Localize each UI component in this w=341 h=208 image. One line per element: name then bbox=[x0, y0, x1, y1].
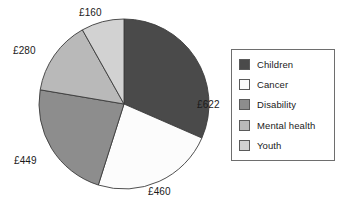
legend-swatch-icon bbox=[239, 99, 250, 110]
slice-value-label: £622 bbox=[197, 99, 220, 110]
legend-item[interactable]: Disability bbox=[239, 96, 334, 114]
legend-item[interactable]: Mental health bbox=[239, 116, 334, 134]
legend-item-label: Children bbox=[257, 59, 293, 70]
legend-swatch-icon bbox=[239, 140, 250, 151]
legend-item-label: Mental health bbox=[257, 120, 315, 131]
slice-value-label: £460 bbox=[148, 186, 171, 197]
legend-item[interactable]: Children bbox=[239, 55, 334, 73]
legend-item-label: Cancer bbox=[257, 79, 288, 90]
legend-item[interactable]: Youth bbox=[239, 137, 334, 155]
legend-item-label: Youth bbox=[257, 140, 281, 151]
slice-value-label: £160 bbox=[79, 7, 102, 18]
legend-item-label: Disability bbox=[257, 99, 296, 110]
pie-chart-figure: £622£460£449£280£160 ChildrenCancerDisab… bbox=[0, 0, 341, 208]
legend-item-list: ChildrenCancerDisabilityMental healthYou… bbox=[232, 50, 334, 160]
slice-value-label: £449 bbox=[14, 155, 37, 166]
legend-item[interactable]: Cancer bbox=[239, 76, 334, 94]
legend: ChildrenCancerDisabilityMental healthYou… bbox=[231, 49, 335, 161]
legend-swatch-icon bbox=[239, 79, 250, 90]
legend-swatch-icon bbox=[239, 120, 250, 131]
pie-svg bbox=[0, 0, 225, 208]
pie-plot-area: £622£460£449£280£160 bbox=[0, 0, 225, 208]
legend-swatch-icon bbox=[239, 59, 250, 70]
slice-value-label: £280 bbox=[13, 45, 36, 56]
